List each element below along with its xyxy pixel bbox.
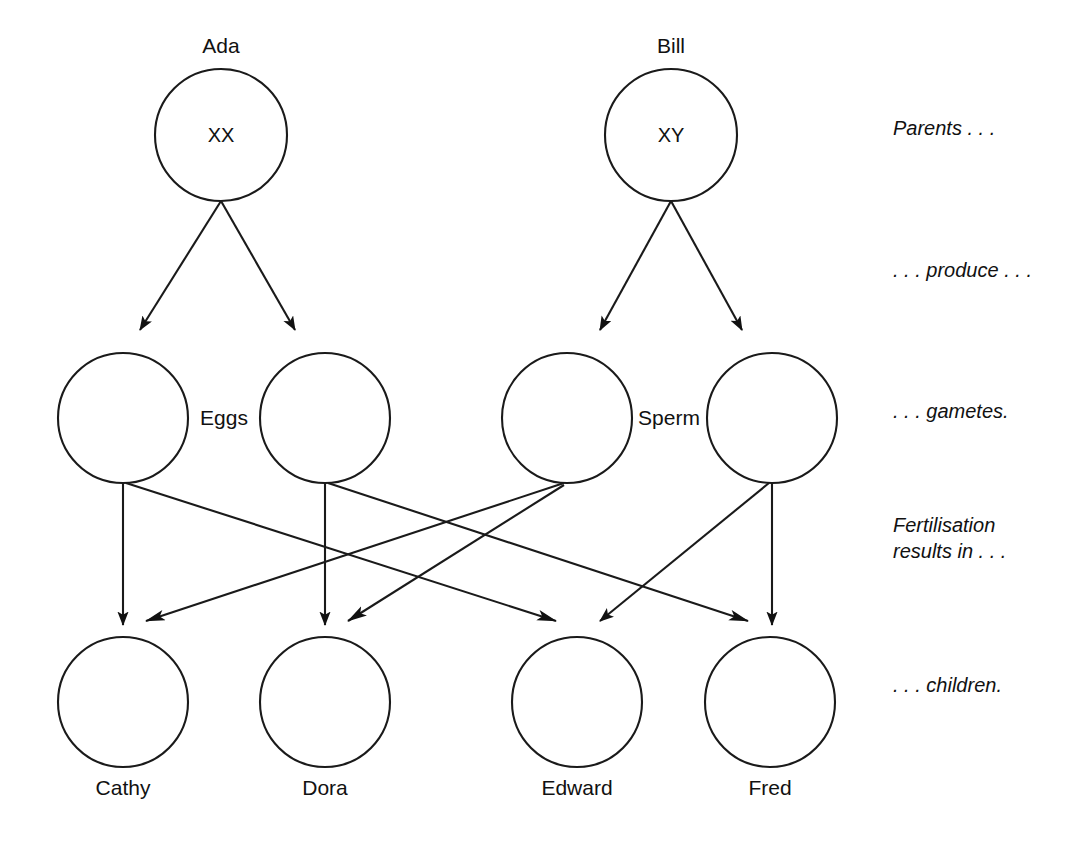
edge-bill-to-sperm2 [671, 201, 742, 330]
child-name-label-dora: Dora [302, 776, 348, 799]
stage-annotation-children: . . . children. [893, 674, 1002, 696]
edge-sperm1-to-cathy [146, 483, 564, 621]
gamete-group-label-eggs: Eggs [200, 406, 248, 429]
stage-annotation-produce: . . . produce . . . [893, 259, 1032, 281]
stage-annotation-line: . . . gametes. [893, 400, 1009, 422]
diagram-canvas: AdaXXBillXYEggsSpermCathyDoraEdwardFred … [0, 0, 1065, 853]
annotations-layer: Parents . . .. . . produce . . .. . . ga… [893, 117, 1032, 696]
stage-annotation-fertilisation: Fertilisationresults in . . . [893, 514, 1006, 562]
child-cathy-circle [58, 637, 188, 767]
stage-annotation-line: results in . . . [893, 540, 1006, 562]
gamete-sperm-1-circle [502, 353, 632, 483]
stage-annotation-line: Parents . . . [893, 117, 995, 139]
stage-annotation-parents: Parents . . . [893, 117, 995, 139]
stage-annotation-gametes: . . . gametes. [893, 400, 1009, 422]
edge-egg1-to-edward [126, 483, 556, 621]
stage-annotation-line: . . . produce . . . [893, 259, 1032, 281]
child-name-label-cathy: Cathy [96, 776, 151, 799]
edge-ada-to-egg1 [140, 201, 221, 330]
parent-name-label-bill: Bill [657, 34, 685, 57]
edge-ada-to-egg2 [221, 201, 295, 330]
stage-annotation-line: Fertilisation [893, 514, 995, 536]
gamete-group-label-sperm: Sperm [638, 406, 700, 429]
child-name-label-edward: Edward [541, 776, 612, 799]
child-fred-circle [705, 637, 835, 767]
parent-name-label-ada: Ada [202, 34, 240, 57]
child-dora-circle [260, 637, 390, 767]
child-name-label-fred: Fred [748, 776, 791, 799]
gamete-sperm-2-circle [707, 353, 837, 483]
inheritance-diagram: AdaXXBillXYEggsSpermCathyDoraEdwardFred … [0, 0, 1065, 853]
nodes-layer [58, 69, 837, 767]
child-edward-circle [512, 637, 642, 767]
parent-genotype-label-bill: XY [658, 124, 685, 146]
parent-genotype-label-ada: XX [208, 124, 235, 146]
edge-bill-to-sperm1 [600, 201, 671, 330]
gamete-egg-2-circle [260, 353, 390, 483]
edge-sperm1-to-dora [348, 485, 564, 621]
stage-annotation-line: . . . children. [893, 674, 1002, 696]
gamete-egg-1-circle [58, 353, 188, 483]
